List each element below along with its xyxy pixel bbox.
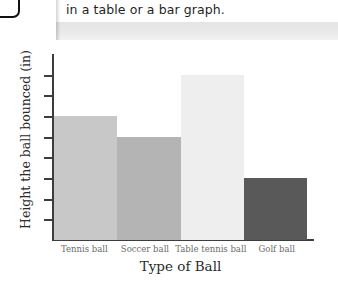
bar — [117, 54, 180, 240]
x-axis-tick-label: Golf ball — [246, 244, 307, 254]
bar-chart: Height the ball bounced (in) Tennis ball… — [0, 40, 338, 289]
x-axis-title: Type of Ball — [54, 258, 307, 274]
corner-box-icon — [0, 0, 20, 18]
x-axis-tick-label: Table tennis ball — [175, 244, 246, 254]
bar-fill — [117, 137, 180, 240]
header-text: in a table or a bar graph. — [66, 2, 225, 17]
bar-fill — [181, 75, 244, 240]
bar-series — [54, 54, 307, 240]
y-axis-tick — [44, 116, 53, 118]
y-axis-tick — [44, 75, 53, 77]
bar-fill — [244, 178, 307, 240]
bar — [54, 54, 117, 240]
y-axis-tick — [44, 157, 53, 159]
y-axis-title: Height the ball bounced (in) — [18, 45, 33, 235]
bar — [181, 54, 244, 240]
y-axis-tick — [44, 137, 53, 139]
y-axis-tick — [44, 95, 53, 97]
y-axis-tick — [44, 219, 53, 221]
x-axis-tick-label: Tennis ball — [54, 244, 115, 254]
bar-fill — [54, 116, 117, 240]
x-axis-tick-labels: Tennis ballSoccer ballTable tennis ballG… — [54, 244, 307, 254]
y-axis-tick — [44, 199, 53, 201]
bar — [244, 54, 307, 240]
y-axis-tick — [44, 178, 53, 180]
x-axis-tick-label: Soccer ball — [115, 244, 176, 254]
